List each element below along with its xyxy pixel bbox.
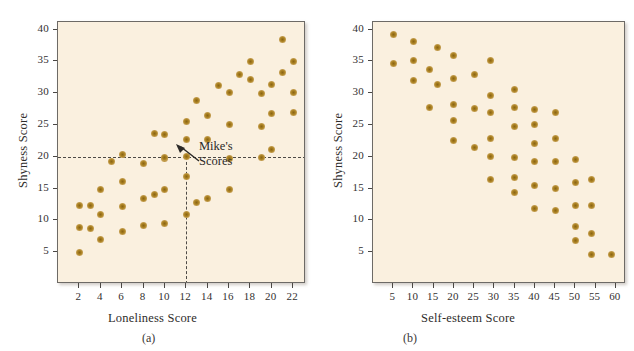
data-point [572,156,579,163]
data-point [193,199,200,206]
data-point [279,36,286,43]
x-tick-mark [228,283,229,288]
x-tick-mark [554,283,555,288]
data-point [552,135,559,142]
data-point [608,251,615,258]
panel-a-y-axis-title: Shyness Score [16,113,31,188]
panel-b-plot-area [372,21,625,283]
data-point [588,230,595,237]
data-point [531,121,538,128]
data-point [588,251,595,258]
x-tick-mark [574,283,575,288]
x-tick-mark [534,283,535,288]
data-point [434,81,441,88]
data-point [193,97,200,104]
data-point [511,104,518,111]
x-tick-mark [473,283,474,288]
data-point [552,185,559,192]
data-point [268,81,275,88]
data-point [119,228,126,235]
data-point [151,191,158,198]
x-tick-mark [164,283,165,288]
y-tick-label: 10 [23,212,49,224]
data-point [471,144,478,151]
data-point [450,137,457,144]
data-point [183,136,190,143]
data-point [531,205,538,212]
data-point [426,104,433,111]
y-tick-mark [368,29,372,30]
panel-a-x-axis-title: Loneliness Score [108,311,197,326]
data-point [426,66,433,73]
data-point [487,153,494,160]
data-point [140,195,147,202]
data-point [511,174,518,181]
data-point [572,237,579,244]
data-point [511,123,518,130]
data-point [450,101,457,108]
data-point [183,118,190,125]
y-tick-label: 35 [338,53,364,65]
mikes-scores-line2: Scores [199,154,233,169]
data-point [76,249,83,256]
x-tick-mark [453,283,454,288]
y-tick-mark [53,188,57,189]
x-tick-mark [514,283,515,288]
data-point [290,109,297,116]
panel-b-y-axis-title: Shyness Score [331,113,346,188]
data-point [258,154,265,161]
data-point [572,202,579,209]
data-point [290,58,297,65]
x-tick-mark [207,283,208,288]
data-point [226,186,233,193]
data-point [279,69,286,76]
data-point [511,189,518,196]
x-tick-mark [615,283,616,288]
data-point [531,182,538,189]
x-tick-mark [271,283,272,288]
data-point [204,112,211,119]
data-point [108,158,115,165]
y-tick-label: 10 [338,212,364,224]
data-point [552,109,559,116]
data-point [119,203,126,210]
x-tick-mark [595,283,596,288]
y-tick-mark [368,156,372,157]
data-point [236,71,243,78]
data-point [552,158,559,165]
data-point [97,211,104,218]
data-point [140,160,147,167]
y-tick-label: 40 [23,22,49,34]
data-point [183,211,190,218]
data-point [204,195,211,202]
data-point [410,57,417,64]
data-point [87,225,94,232]
data-point [183,173,190,180]
y-tick-mark [53,219,57,220]
x-tick-label: 22 [277,290,307,302]
panel-a: 510152025303540 246810121416182022 Shyne… [0,0,320,351]
y-tick-label: 40 [338,22,364,34]
y-tick-label: 30 [338,85,364,97]
y-tick-label: 5 [23,244,49,256]
data-point [410,77,417,84]
data-point [572,223,579,230]
data-point [450,52,457,59]
figure-root: 510152025303540 246810121416182022 Shyne… [0,0,634,351]
y-tick-mark [368,188,372,189]
panel-b-caption: (b) [403,331,417,346]
data-point [511,154,518,161]
mikes-scores-line1: Mike's [199,139,233,154]
data-point [151,130,158,137]
y-tick-mark [53,251,57,252]
data-point [97,236,104,243]
y-tick-mark [53,29,57,30]
data-point [76,202,83,209]
panel-a-plot-area [57,21,305,283]
panel-b-x-axis-title: Self-esteem Score [421,311,515,326]
data-point [247,76,254,83]
data-point [119,178,126,185]
x-tick-mark [78,283,79,288]
data-point [531,158,538,165]
y-tick-mark [368,60,372,61]
